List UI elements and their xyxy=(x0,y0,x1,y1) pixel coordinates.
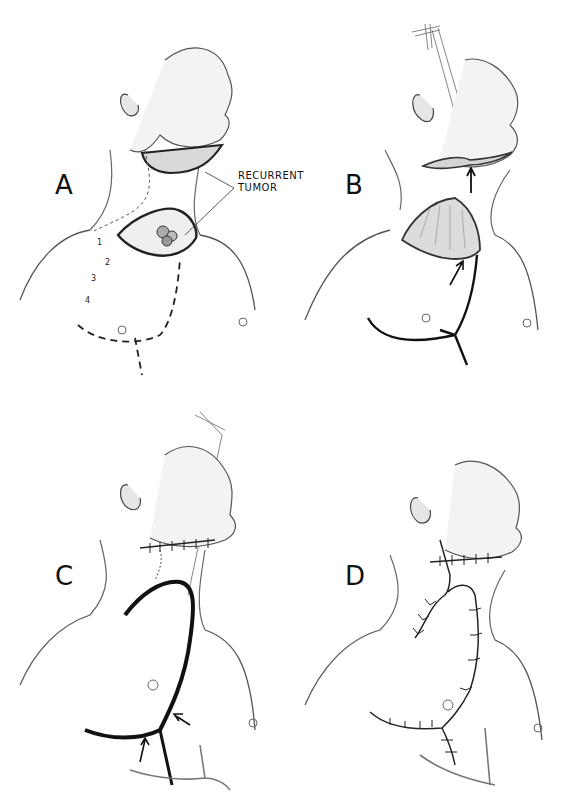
panel-a-illustration xyxy=(0,0,290,400)
marker-1: 1 xyxy=(97,238,102,247)
marker-3: 3 xyxy=(91,274,96,283)
panel-label-c: C xyxy=(55,563,73,589)
panel-d: D xyxy=(280,400,575,807)
panel-label-d: D xyxy=(345,563,365,589)
panel-d-illustration xyxy=(280,400,575,807)
marker-4: 4 xyxy=(85,296,90,305)
panel-b-illustration xyxy=(280,0,575,400)
panel-c: C xyxy=(0,400,290,807)
panel-c-illustration xyxy=(0,400,290,807)
panel-b: B xyxy=(280,0,575,400)
panel-label-b: B xyxy=(345,172,363,198)
panel-a: A RECURRENT TUMOR 1 2 3 4 xyxy=(0,0,290,400)
marker-2: 2 xyxy=(105,258,110,267)
panel-label-a: A xyxy=(55,172,73,198)
